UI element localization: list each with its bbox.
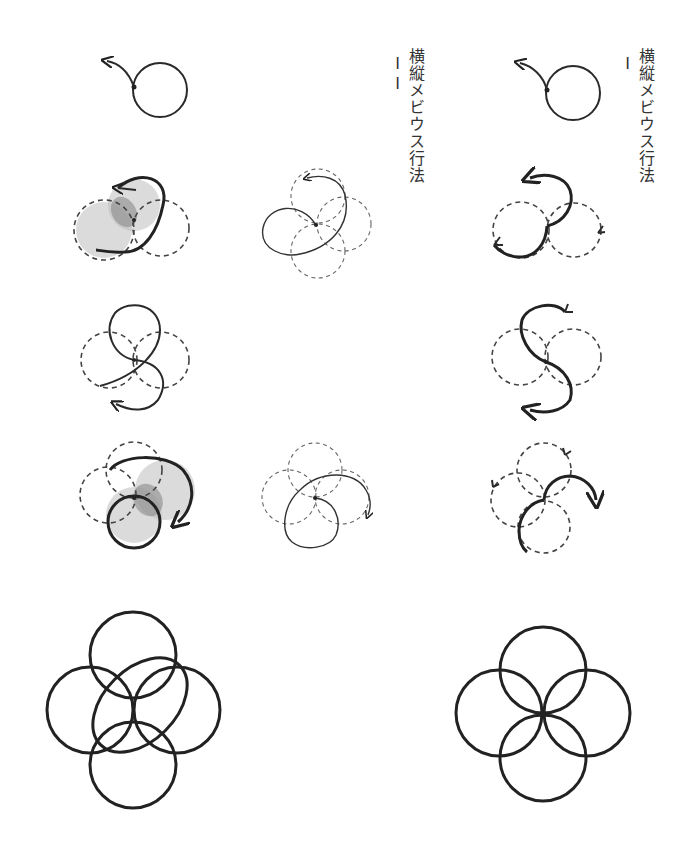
- figure-ii-row3-s-curve: [81, 305, 189, 409]
- figure-ii-final-interlaced: [47, 612, 220, 808]
- method-ii-title: 横縦メビウス行法: [406, 48, 425, 184]
- figure-i-row1-single-loop: [520, 63, 600, 120]
- figure-ii-row2-shaded: [74, 177, 189, 260]
- figure-ii-middle-row2: [263, 169, 371, 278]
- method-i-label: 横縦メビウス行法 I: [618, 48, 654, 184]
- method-ii-numeral: II: [388, 54, 406, 184]
- method-i-title: 横縦メビウス行法: [636, 48, 655, 184]
- method-ii-label: 横縦メビウス行法 II: [388, 48, 424, 184]
- mobius-diagram-canvas: [0, 0, 683, 842]
- figure-ii-row1-single-loop: [107, 61, 187, 117]
- figure-i-final-rosette: [456, 627, 630, 801]
- figure-i-row3-s-curve: [492, 304, 601, 412]
- method-i-numeral: I: [618, 54, 636, 184]
- figure-ii-row4-shaded: [80, 442, 195, 548]
- figure-i-row2-arcs: [493, 175, 605, 258]
- figure-ii-middle-row4: [262, 443, 370, 548]
- figure-i-row4-arcs: [491, 443, 596, 553]
